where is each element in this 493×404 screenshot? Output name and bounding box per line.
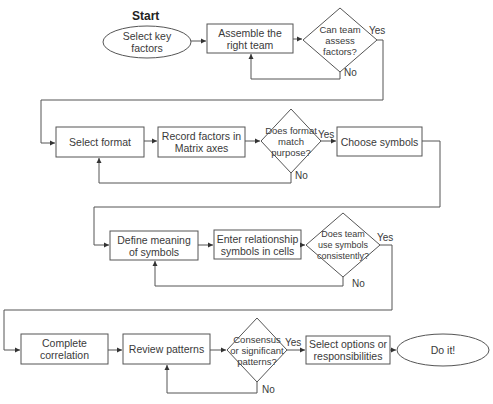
decision-1-text: Can team assess factors? — [315, 22, 365, 58]
define-meaning-text: Define meaning of symbols — [112, 232, 196, 260]
decision-3-yes: Yes — [377, 232, 393, 243]
end-oval-text: Do it! — [405, 338, 481, 362]
select-options-text: Select options or responsibilities — [308, 336, 388, 364]
decision-2-yes: Yes — [318, 129, 334, 140]
decision-4-yes: Yes — [285, 337, 301, 348]
start-label: Start — [132, 9, 159, 23]
select-format-text: Select format — [58, 128, 142, 156]
decision-1-yes: Yes — [369, 25, 385, 36]
enter-relationship-text: Enter relationship symbols in cells — [216, 231, 299, 259]
assemble-team-text: Assemble the right team — [210, 25, 290, 53]
record-factors-text: Record factors in Matrix axes — [160, 128, 243, 156]
start-oval-text: Select key factors — [113, 27, 181, 57]
decision-4-text: Consensus or significant patterns? — [229, 332, 285, 368]
choose-symbols-text: Choose symbols — [340, 128, 419, 156]
complete-correlation-text: Complete correlation — [23, 335, 106, 363]
decision-1-no: No — [344, 67, 357, 78]
decision-2-text: Does format match purpose? — [265, 123, 317, 159]
review-patterns-text: Review patterns — [125, 335, 208, 363]
decision-3-text: Does team use symbols consistently? — [313, 227, 373, 263]
decision-2-no: No — [295, 170, 308, 181]
decision-3-no: No — [352, 278, 365, 289]
decision-4-no: No — [262, 384, 275, 395]
